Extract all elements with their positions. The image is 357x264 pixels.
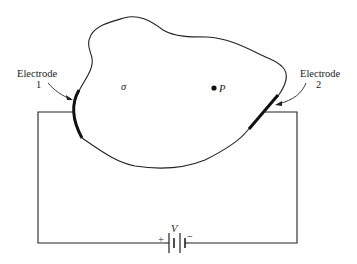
battery-plus-sign: + bbox=[158, 234, 164, 245]
conductivity-sigma-label: σ bbox=[121, 81, 127, 92]
point-p-dot bbox=[211, 85, 216, 90]
electrode-2-arrow bbox=[278, 83, 306, 104]
electrode-2-label-line1: Electrode bbox=[300, 68, 341, 79]
electrode-1 bbox=[74, 90, 82, 138]
wire-left bbox=[38, 112, 165, 243]
electrode-1-arrowhead bbox=[66, 95, 73, 100]
electrode-2-label-line2: 2 bbox=[316, 79, 321, 90]
battery-minus-sign: − bbox=[187, 231, 193, 242]
point-p-label: P bbox=[218, 83, 226, 94]
conductor-body-outline bbox=[78, 17, 286, 168]
electrode-1-label-line2: 1 bbox=[36, 79, 41, 90]
wire-right bbox=[189, 112, 297, 243]
battery-voltage-label: V bbox=[171, 223, 179, 234]
battery-icon bbox=[165, 233, 189, 253]
electrode-1-label-line1: Electrode bbox=[17, 68, 58, 79]
electrode-circuit-diagram: V + − Electrode 1 Electrode 2 σ P bbox=[0, 0, 357, 264]
electrode-2-arrowhead bbox=[275, 101, 282, 106]
